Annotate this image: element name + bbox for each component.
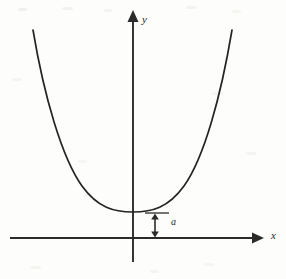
offset-label-a: a xyxy=(171,216,176,227)
x-axis-group: x xyxy=(10,229,276,244)
offset-arrow-up-icon xyxy=(151,214,159,220)
offset-annotation-group: a xyxy=(145,213,176,238)
parabola-figure: x y a xyxy=(0,0,286,279)
figure-canvas: x y a xyxy=(0,0,286,279)
x-axis-label: x xyxy=(270,229,276,241)
x-axis-arrowhead-icon xyxy=(252,233,264,244)
y-axis-label: y xyxy=(141,13,147,25)
y-axis-group: y xyxy=(128,10,148,262)
y-axis-arrowhead-icon xyxy=(128,10,139,22)
offset-arrow-down-icon xyxy=(151,232,159,238)
